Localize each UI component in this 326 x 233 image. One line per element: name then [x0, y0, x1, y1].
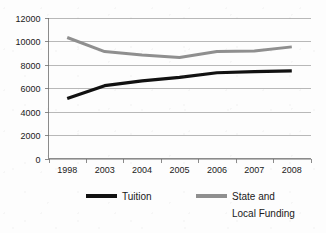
y-tick-label: 6000	[20, 84, 40, 94]
x-tick-label: 1998	[57, 165, 77, 175]
line-chart: 020004000600080001000012000 199820032004…	[0, 0, 326, 233]
x-tick-label: 2006	[207, 165, 227, 175]
x-tick-label: 2008	[282, 165, 302, 175]
x-tick-label: 2004	[132, 165, 152, 175]
x-tick-label: 2005	[169, 165, 189, 175]
legend-label-state-and-local-funding-line2: Local Funding	[232, 208, 295, 219]
x-tick-label: 2007	[244, 165, 264, 175]
legend-label-state-and-local-funding-line1: State and	[232, 191, 275, 202]
y-tick-label: 8000	[20, 61, 40, 71]
y-tick-label: 2000	[20, 131, 40, 141]
y-tick-label: 10000	[15, 37, 40, 47]
legend-label-tuition: Tuition	[122, 191, 152, 202]
chart-container: 020004000600080001000012000 199820032004…	[0, 0, 326, 233]
y-tick-label: 0	[35, 155, 40, 165]
x-tick-label: 2003	[95, 165, 115, 175]
y-tick-label: 12000	[15, 14, 40, 24]
y-tick-label: 4000	[20, 108, 40, 118]
chart-background	[0, 0, 326, 233]
